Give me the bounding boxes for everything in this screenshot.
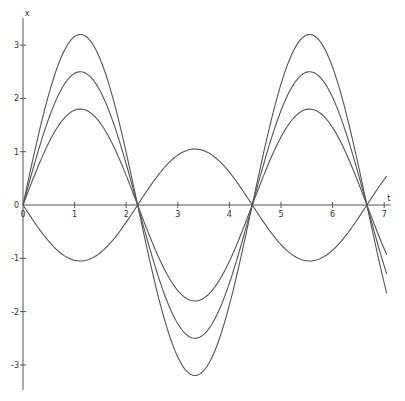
- y-tick-label: 2: [14, 94, 19, 103]
- y-axis-label: x: [25, 9, 30, 18]
- labels: 1234567-3-2-112300xt: [11, 9, 390, 370]
- origin-label-y: 0: [14, 201, 19, 210]
- y-tick-label: -1: [11, 254, 19, 263]
- y-tick-label: 1: [14, 148, 19, 157]
- x-tick-label: 5: [278, 210, 283, 219]
- x-tick-label: 2: [124, 210, 129, 219]
- y-tick-label: -2: [11, 308, 19, 317]
- x-tick-label: 3: [175, 210, 180, 219]
- x-axis-label: t: [387, 194, 390, 203]
- x-tick-label: 4: [227, 210, 232, 219]
- x-tick-label: 7: [382, 210, 387, 219]
- y-tick-label: 3: [14, 41, 19, 50]
- y-tick-label: -3: [11, 361, 19, 370]
- origin-label-x: 0: [20, 210, 25, 219]
- chart-plot: 1234567-3-2-112300xt: [0, 0, 405, 401]
- x-tick-label: 6: [330, 210, 335, 219]
- x-tick-label: 1: [72, 210, 77, 219]
